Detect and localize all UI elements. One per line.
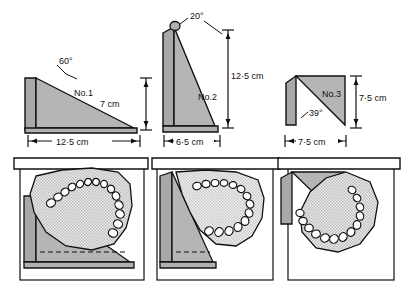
wedge-no2-angle-label: 20°: [190, 11, 204, 21]
wedge-no3-side-face: [286, 76, 296, 125]
wedge-no2-name-label: No.2: [198, 92, 217, 102]
wedge-no2-height-label: 12·5 cm: [231, 71, 264, 81]
panel-no2-wedge-base: [160, 262, 216, 268]
wedge-no1-angle-label: 60°: [59, 56, 73, 66]
wedge-no2-side-face: [163, 27, 174, 126]
wedge-no1-name-label: No.1: [74, 88, 93, 98]
panel-no2-top-bar: [152, 158, 280, 169]
wedge-no3-angle-label: 39°: [309, 108, 323, 118]
panel-no1-wedge-base: [24, 262, 134, 268]
figure-canvas: 60° No.1 7 cm 12·5 cm 20° No.2: [0, 0, 411, 288]
wedge-no3-name-label: No.3: [322, 89, 341, 99]
dental-wedge-figure: 60° No.1 7 cm 12·5 cm 20° No.2: [0, 0, 411, 288]
wedge-no2-base-label: 6·5 cm: [176, 137, 204, 147]
wedge-no1-height-label: 7 cm: [100, 99, 120, 109]
wedge-no2-apex-knob: [170, 22, 180, 31]
panel-no2-wedge-side: [160, 172, 172, 262]
wedge-no1-side-face: [25, 78, 36, 130]
panel-no1-group: [14, 158, 148, 280]
wedge-no1-base: [25, 128, 137, 133]
wedge-no2-base: [163, 126, 218, 132]
wedge-no3-height-label: 7·5 cm: [359, 93, 387, 103]
panel-no2-group: [152, 158, 280, 280]
panel-no1-top-bar: [14, 158, 148, 169]
wedge-no3-base-label: 7·5 cm: [298, 137, 326, 147]
panel-no3-wedge-side: [281, 172, 292, 224]
wedge-no1-base-label: 12·5 cm: [56, 137, 89, 147]
panel-no3-top-bar: [278, 158, 400, 169]
panel-no3-group: [278, 158, 400, 280]
